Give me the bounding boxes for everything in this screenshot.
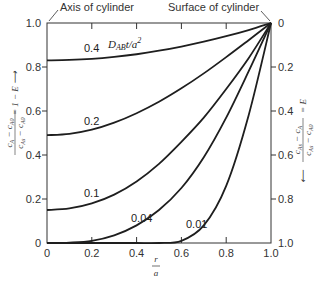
right-y-tick-label: 0.8 (278, 193, 293, 205)
svg-text:r: r (154, 254, 158, 264)
axis-of-cylinder-label: Axis of cylinder (60, 1, 134, 13)
curve-label-0.2: 0.2 (84, 115, 99, 127)
svg-text:cA − cA0: cA − cA0 (4, 119, 15, 148)
svg-text:⟵: ⟵ (298, 169, 308, 183)
left-y-tick-label: 0.4 (26, 149, 41, 161)
left-y-tick-label: 0 (35, 237, 41, 249)
curves (47, 23, 271, 243)
curve-0.2 (47, 23, 271, 135)
svg-text:cAs − cA: cAs − cA (292, 126, 303, 155)
left-y-tick-label: 0.2 (26, 193, 41, 205)
x-tick-label: 0.4 (129, 247, 144, 259)
x-tick-label: 0 (44, 247, 50, 259)
curve-labels: 0.40.20.10.040.01 (84, 42, 207, 230)
surface-of-cylinder-label: Surface of cylinder (168, 1, 259, 13)
right-y-tick-label: 0 (278, 17, 284, 29)
curve-0.4 (47, 23, 271, 60)
x-tick-label: 1.0 (263, 247, 278, 259)
svg-text:cAs − cA0: cAs − cA0 (303, 124, 314, 155)
x-tick-label: 0.6 (174, 247, 189, 259)
axis-tick-labels: 00.20.40.60.81.000.20.40.60.81.01.00.80.… (26, 17, 294, 259)
x-axis-label: r a (152, 254, 160, 278)
svg-text:a: a (154, 268, 159, 278)
svg-text:= E: = E (298, 99, 308, 113)
curve-label-0.04: 0.04 (131, 212, 152, 224)
x-tick-label: 0.8 (219, 247, 234, 259)
axis-of-cylinder-leader (49, 10, 58, 21)
concentration-profile-chart: 00.20.40.60.81.000.20.40.60.81.01.00.80.… (0, 0, 314, 283)
parameter-label: DABt/a2 (107, 36, 141, 52)
left-y-tick-label: 0.6 (26, 105, 41, 117)
svg-text:cAs − cA0: cAs − cA0 (15, 117, 26, 148)
right-y-axis-label: cAs − cA cAs − cA0 = E ⟵ (292, 99, 314, 183)
left-y-tick-label: 0.8 (26, 61, 41, 73)
x-tick-label: 0.2 (84, 247, 99, 259)
left-y-tick-label: 1.0 (26, 17, 41, 29)
right-y-tick-label: 1.0 (278, 237, 293, 249)
curve-label-0.01: 0.01 (186, 218, 207, 230)
left-y-axis-label: cA − cA0 cAs − cA0 = 1 − E ⟶ (4, 70, 26, 155)
surface-of-cylinder-leader (261, 11, 270, 21)
right-y-tick-label: 0.2 (278, 61, 293, 73)
curve-label-0.1: 0.1 (84, 187, 99, 199)
svg-text:= 1 − E ⟶: = 1 − E ⟶ (10, 70, 20, 115)
right-y-tick-label: 0.4 (278, 105, 293, 117)
curve-label-0.4: 0.4 (84, 42, 99, 54)
right-y-tick-label: 0.6 (278, 149, 293, 161)
